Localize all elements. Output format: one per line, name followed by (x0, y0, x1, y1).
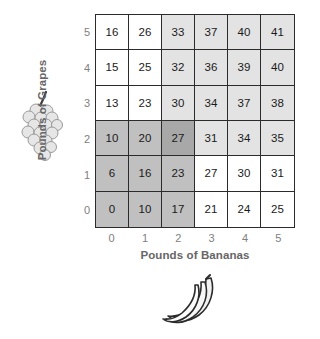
y-tick-label: 2 (72, 121, 92, 157)
grid-cell: 37 (195, 15, 228, 50)
grid-cell: 16 (129, 156, 162, 191)
y-tick-label: 3 (72, 85, 92, 121)
y-tick-label: 0 (72, 192, 92, 228)
grid-cell: 33 (162, 15, 195, 50)
grid-cell: 13 (96, 86, 129, 121)
x-tick-label: 2 (162, 230, 195, 246)
grid-cell: 10 (129, 192, 162, 227)
grid-cell: 24 (228, 192, 261, 227)
y-tick-label: 1 (72, 157, 92, 193)
grid-cell: 31 (195, 121, 228, 156)
grid-cell: 25 (261, 192, 294, 227)
grid-cell: 40 (228, 15, 261, 50)
grid-cell: 40 (261, 50, 294, 85)
grid-cell: 41 (261, 15, 294, 50)
y-axis-tick-labels: 5 4 3 2 1 0 (72, 14, 92, 228)
grid-cell: 20 (129, 121, 162, 156)
grid-cell: 6 (96, 156, 129, 191)
grid-cell: 35 (261, 121, 294, 156)
grid-cell: 30 (162, 86, 195, 121)
x-tick-label: 3 (195, 230, 228, 246)
grid-cell: 25 (129, 50, 162, 85)
grid-cell: 21 (195, 192, 228, 227)
grid-cell: 10 (96, 121, 129, 156)
x-tick-label: 1 (128, 230, 161, 246)
y-axis-title: Pounds of Grapes (36, 30, 48, 190)
grid-cell: 0 (96, 192, 129, 227)
grid-cell: 37 (228, 86, 261, 121)
grid-cell: 17 (162, 192, 195, 227)
grid-cell: 27 (162, 121, 195, 156)
x-tick-label: 4 (228, 230, 261, 246)
grid-cell: 36 (195, 50, 228, 85)
x-tick-label: 0 (95, 230, 128, 246)
grid-cell: 15 (96, 50, 129, 85)
x-tick-label: 5 (262, 230, 295, 246)
grid-cell: 31 (261, 156, 294, 191)
x-axis-title: Pounds of Bananas (95, 249, 295, 261)
grid-cell: 16 (96, 15, 129, 50)
x-axis-tick-labels: 0 1 2 3 4 5 (95, 230, 295, 246)
grid-cell: 23 (129, 86, 162, 121)
grid-cell: 34 (195, 86, 228, 121)
grid-cell: 38 (261, 86, 294, 121)
bananas-icon (155, 272, 227, 330)
grid-cell: 34 (228, 121, 261, 156)
y-tick-label: 5 (72, 14, 92, 50)
grid-cell: 30 (228, 156, 261, 191)
grid-cell: 39 (228, 50, 261, 85)
utility-table-figure: Pounds of Grapes 5 4 3 2 1 0 16263337404… (0, 0, 320, 339)
grid-cell: 23 (162, 156, 195, 191)
utility-grid: 1626333740411525323639401323303437381020… (95, 14, 295, 228)
grid-cell: 32 (162, 50, 195, 85)
grid-cell: 27 (195, 156, 228, 191)
grid-cell: 26 (129, 15, 162, 50)
y-tick-label: 4 (72, 50, 92, 86)
